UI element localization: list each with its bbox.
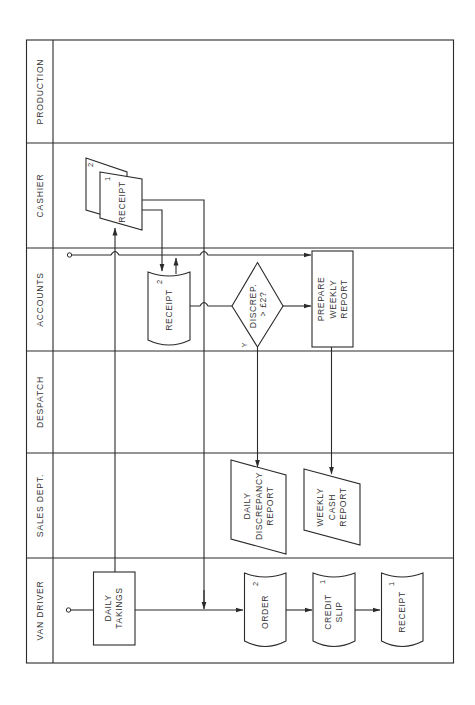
decision-line-1: DISCREP. [248, 284, 258, 328]
weekly-cash-report[interactable]: WEEKLY CASH REPORT [304, 469, 360, 545]
copy-number-2: 2 [86, 163, 95, 167]
accounts-receipt-label: RECEIPT [164, 289, 174, 331]
order-document[interactable]: 2 ORDER [245, 573, 287, 647]
lane-header-cashier: CASHIER [35, 174, 45, 218]
report-line-2: DISCREPANCY [254, 472, 264, 540]
credit-slip-document[interactable]: 1 CREDIT SLIP [313, 573, 355, 647]
lane-header-despatch: DESPATCH [35, 376, 45, 428]
copy-number-1: 1 [103, 177, 112, 181]
process-line-2: TAKINGS [114, 587, 124, 628]
lane-header-sales-dept: SALES DEPT. [35, 474, 45, 537]
copy-number-2: 2 [251, 582, 260, 586]
copy-number-2: 2 [155, 280, 164, 284]
credit-slip-line-1: CREDIT [323, 594, 333, 630]
daily-takings-process[interactable]: DAILY TAKINGS [94, 572, 136, 645]
flowchart-canvas: PRODUCTION CASHIER ACCOUNTS DESPATCH SAL… [0, 0, 475, 705]
report-line-2: CASH [327, 494, 337, 520]
process-line-1: PREPARE [316, 277, 326, 322]
lane-header-van-driver: VAN DRIVER [35, 581, 45, 641]
van-receipt-label: RECEIPT [397, 591, 407, 633]
prepare-weekly-report-process[interactable]: PREPARE WEEKLY REPORT [312, 251, 353, 347]
decision-line-2: > £2? [258, 292, 268, 317]
report-line-1: WEEKLY [315, 488, 325, 527]
report-line-1: DAILY [242, 492, 252, 519]
copy-number-1: 1 [318, 580, 327, 584]
decision-yes-label: Y [240, 342, 249, 347]
lane-header-production: PRODUCTION [35, 59, 45, 125]
report-line-3: REPORT [338, 487, 348, 526]
credit-slip-line-2: SLIP [334, 601, 344, 622]
accounts-receipt-document[interactable]: 2 RECEIPT [148, 272, 190, 345]
lane-grid [27, 40, 454, 663]
discrepancy-decision[interactable]: DISCREP. > £2? Y [232, 263, 283, 348]
daily-discrepancy-report[interactable]: DAILY DISCREPANCY REPORT [231, 460, 286, 554]
order-label: ORDER [260, 595, 270, 629]
cashier-receipt-label: RECEIPT [117, 181, 127, 223]
report-line-3: REPORT [265, 486, 275, 525]
lane-header-accounts: ACCOUNTS [35, 272, 45, 327]
cashier-receipt-multipart[interactable]: 2 1 RECEIPT [86, 158, 142, 230]
process-line-2: WEEKLY [328, 280, 338, 319]
process-line-3: REPORT [339, 279, 349, 318]
van-receipt-document[interactable]: 1 RECEIPT [382, 573, 424, 647]
copy-number-1: 1 [387, 582, 396, 586]
process-line-1: DAILY [103, 594, 113, 621]
